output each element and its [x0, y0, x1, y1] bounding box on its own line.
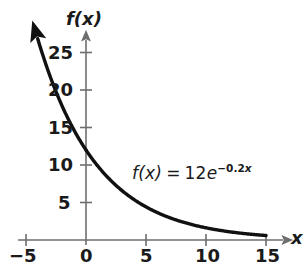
equation-exponent-variable: x [245, 162, 252, 174]
x-tick-label--5: −5 [9, 247, 37, 265]
x-tick-label-5: 5 [140, 247, 153, 265]
y-axis-label: f(x) [66, 10, 102, 28]
equation-base: e [207, 163, 218, 183]
equation-function-name: f(x) [132, 163, 162, 183]
equation-exponent-sign: − [217, 162, 226, 174]
y-tick-label-25: 25 [48, 44, 73, 62]
exponential-decay-graph: f(x) x 5 10 15 20 25 −5 0 5 10 15 f(x)=1… [0, 0, 308, 266]
plot-canvas [0, 0, 308, 266]
y-tick-label-5: 5 [58, 194, 71, 212]
x-axis-label: x [291, 229, 303, 247]
curve-reference-path [38, 41, 274, 238]
x-tick-label-15: 15 [255, 247, 280, 265]
y-tick-label-15: 15 [48, 119, 73, 137]
equation-exponent: −0.2x [217, 162, 251, 174]
y-tick-label-10: 10 [48, 156, 73, 174]
equation-exponent-coefficient: 0.2 [226, 162, 245, 174]
equation-annotation: f(x)=12e−0.2x [132, 163, 252, 182]
y-tick-label-20: 20 [48, 81, 73, 99]
x-tick-label-0: 0 [80, 247, 93, 265]
x-tick-label-10: 10 [195, 247, 220, 265]
equation-equals-sign: = [162, 163, 184, 183]
equation-coefficient: 12 [185, 163, 207, 183]
